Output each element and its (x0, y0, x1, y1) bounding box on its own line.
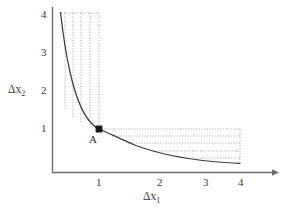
point-a-label: A (89, 134, 97, 145)
x-axis-title-subscript: 1 (156, 196, 160, 205)
axes (52, 7, 279, 176)
x-tick-label-2: 2 (157, 177, 163, 188)
dotted-construction-lines (61, 13, 240, 163)
y-tick-label-3: 3 (41, 47, 47, 58)
x-axis-title-base: Δx (143, 190, 156, 202)
y-axis-title-base: Δx (8, 83, 21, 95)
x-tick-label-3: 3 (203, 177, 209, 188)
x-tick-label-4: 4 (238, 177, 244, 188)
point-a-marker (96, 126, 103, 133)
y-tick-label-2: 2 (41, 85, 47, 96)
y-axis-title-subscript: 2 (21, 89, 25, 98)
y-tick-label-1: 1 (41, 123, 47, 134)
x-axis-title: Δx1 (143, 191, 160, 205)
horizontal-dotted-rows (99, 129, 240, 158)
y-tick-label-4: 4 (41, 9, 47, 20)
hyperbola-curve (61, 13, 241, 164)
x-tick-label-1: 1 (96, 177, 102, 188)
x-axis-arrowhead (272, 169, 279, 175)
plot-canvas (0, 0, 288, 209)
y-axis-title: Δx2 (8, 84, 25, 98)
hyperbola-figure: 4 3 2 1 1 2 3 4 Δx2 Δx1 A (0, 0, 288, 209)
